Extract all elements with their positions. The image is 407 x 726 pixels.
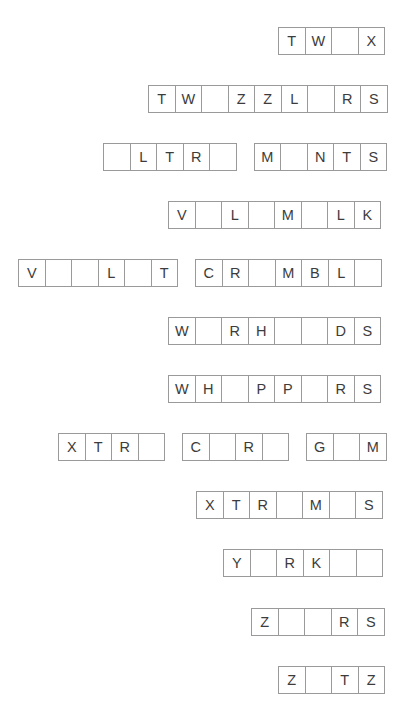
letter-cell[interactable]: Z [251,608,279,636]
letter-cell-blank[interactable] [209,143,237,171]
word-group: XTRMS [196,491,383,519]
letter-cell[interactable]: P [274,375,302,403]
letter-cell-blank[interactable] [124,259,152,287]
letter-cell[interactable]: G [306,433,334,461]
letter-cell[interactable]: L [98,259,126,287]
letter-cell-blank[interactable] [304,608,332,636]
letter-cell[interactable]: M [359,433,387,461]
letter-cell[interactable]: W [305,27,333,55]
letter-cell[interactable]: T [85,433,113,461]
letter-cell[interactable]: L [130,143,158,171]
letter-cell[interactable]: V [168,201,196,229]
letter-cell[interactable]: X [358,27,386,55]
letter-cell[interactable]: S [360,143,388,171]
letter-cell-blank[interactable] [301,375,329,403]
letter-cell[interactable]: Z [228,85,256,113]
letter-cell[interactable]: S [360,85,388,113]
letter-cell-blank[interactable] [276,491,304,519]
letter-cell[interactable]: B [301,259,329,287]
letter-cell[interactable]: M [274,201,302,229]
letter-cell[interactable]: C [195,259,223,287]
letter-cell-blank[interactable] [201,85,229,113]
letter-cell[interactable]: H [248,317,276,345]
puzzle-sheet: TWXTWZZLRSLTRMNTSVLMLKVLTCRMBLWRHDSWHPPR… [0,0,407,726]
letter-cell[interactable]: Z [358,666,386,694]
letter-cell[interactable]: W [168,375,196,403]
letter-cell-blank[interactable] [250,549,278,577]
word-group: MNTS [254,143,388,171]
letter-cell[interactable]: K [354,201,382,229]
letter-cell-blank[interactable] [248,201,276,229]
letter-cell[interactable]: T [148,85,176,113]
letter-cell[interactable]: S [354,375,382,403]
letter-cell-blank[interactable] [103,143,131,171]
letter-cell[interactable]: M [254,143,282,171]
letter-cell[interactable]: R [235,433,263,461]
letter-cell-blank[interactable] [354,259,382,287]
letter-cell[interactable]: R [221,317,249,345]
letter-cell-blank[interactable] [301,201,329,229]
letter-cell[interactable]: L [327,201,355,229]
letter-cell[interactable]: T [331,666,359,694]
letter-cell-blank[interactable] [221,375,249,403]
letter-cell[interactable]: T [223,491,251,519]
letter-cell[interactable]: R [327,375,355,403]
letter-cell[interactable]: L [281,85,309,113]
letter-cell-blank[interactable] [331,27,359,55]
letter-cell[interactable]: C [182,433,210,461]
letter-cell[interactable]: T [333,143,361,171]
letter-cell[interactable]: D [327,317,355,345]
word-group: TWZZLRS [148,85,388,113]
letter-cell[interactable]: V [18,259,46,287]
letter-cell[interactable]: X [196,491,224,519]
letter-cell[interactable]: M [302,491,330,519]
letter-cell[interactable]: R [183,143,211,171]
letter-cell[interactable]: Z [254,85,282,113]
letter-cell[interactable]: N [307,143,335,171]
letter-cell-blank[interactable] [71,259,99,287]
letter-cell[interactable]: M [275,259,303,287]
letter-cell-blank[interactable] [307,85,335,113]
letter-cell-blank[interactable] [356,549,384,577]
letter-cell[interactable]: R [111,433,139,461]
letter-cell-blank[interactable] [45,259,73,287]
letter-cell[interactable]: P [248,375,276,403]
word-group: VLT [18,259,178,287]
letter-cell[interactable]: Y [223,549,251,577]
letter-cell[interactable]: Z [278,666,306,694]
letter-cell[interactable]: W [168,317,196,345]
letter-cell-blank[interactable] [262,433,290,461]
letter-cell-blank[interactable] [138,433,166,461]
letter-cell-blank[interactable] [280,143,308,171]
letter-cell[interactable]: T [151,259,179,287]
letter-cell[interactable]: T [156,143,184,171]
letter-cell[interactable]: S [354,317,382,345]
letter-cell-blank[interactable] [329,549,357,577]
letter-cell[interactable]: S [355,491,383,519]
letter-cell[interactable]: R [334,85,362,113]
letter-cell-blank[interactable] [278,608,306,636]
letter-cell-blank[interactable] [195,201,223,229]
letter-cell[interactable]: R [276,549,304,577]
letter-cell-blank[interactable] [209,433,237,461]
word-group: CR [182,433,289,461]
letter-cell-blank[interactable] [333,433,361,461]
letter-cell[interactable]: T [278,27,306,55]
letter-cell-blank[interactable] [329,491,357,519]
puzzle-row: ZTZ [0,666,407,694]
letter-cell-blank[interactable] [274,317,302,345]
letter-cell[interactable]: R [222,259,250,287]
letter-cell[interactable]: L [328,259,356,287]
letter-cell-blank[interactable] [248,259,276,287]
letter-cell-blank[interactable] [305,666,333,694]
letter-cell[interactable]: K [303,549,331,577]
letter-cell[interactable]: W [175,85,203,113]
letter-cell-blank[interactable] [195,317,223,345]
letter-cell[interactable]: R [331,608,359,636]
letter-cell[interactable]: S [357,608,385,636]
letter-cell-blank[interactable] [301,317,329,345]
letter-cell[interactable]: X [58,433,86,461]
letter-cell[interactable]: H [195,375,223,403]
letter-cell[interactable]: R [249,491,277,519]
letter-cell[interactable]: L [221,201,249,229]
